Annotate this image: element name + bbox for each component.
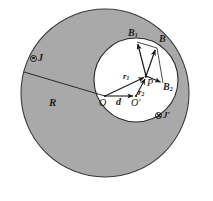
label-vector-B2-subscript: 2 (170, 85, 173, 92)
figure-canvas (0, 0, 213, 201)
label-vector-B2: B2 (163, 82, 173, 93)
label-vector-B1-base: B (128, 27, 135, 38)
current-density-j-out-of-page: J (30, 53, 43, 63)
label-current-J-prime: J′ (163, 111, 170, 120)
label-separation-d: d (116, 97, 121, 107)
label-vector-r1: r1 (123, 72, 129, 82)
physics-figure: R d O O′ P r1 r2 B1 B B2 J J′ (0, 0, 213, 201)
label-point-O-prime: O′ (131, 98, 140, 108)
circle-dot-icon (30, 55, 37, 62)
label-vector-r1-subscript: 1 (127, 75, 130, 81)
label-vector-B1-subscript: 1 (135, 31, 138, 38)
label-radius-R: R (49, 97, 56, 108)
label-vector-r2: r2 (138, 88, 144, 98)
label-vector-r2-subscript: 2 (142, 91, 145, 97)
label-current-J: J (38, 53, 43, 63)
circle-cross-icon (155, 112, 162, 119)
label-vector-B1: B1 (128, 28, 138, 39)
label-vector-B2-base: B (163, 81, 170, 92)
label-point-P: P (147, 78, 153, 88)
label-vector-B: B (159, 34, 166, 44)
current-density-j-prime-into-page: J′ (155, 111, 170, 120)
label-point-O: O (99, 98, 106, 108)
